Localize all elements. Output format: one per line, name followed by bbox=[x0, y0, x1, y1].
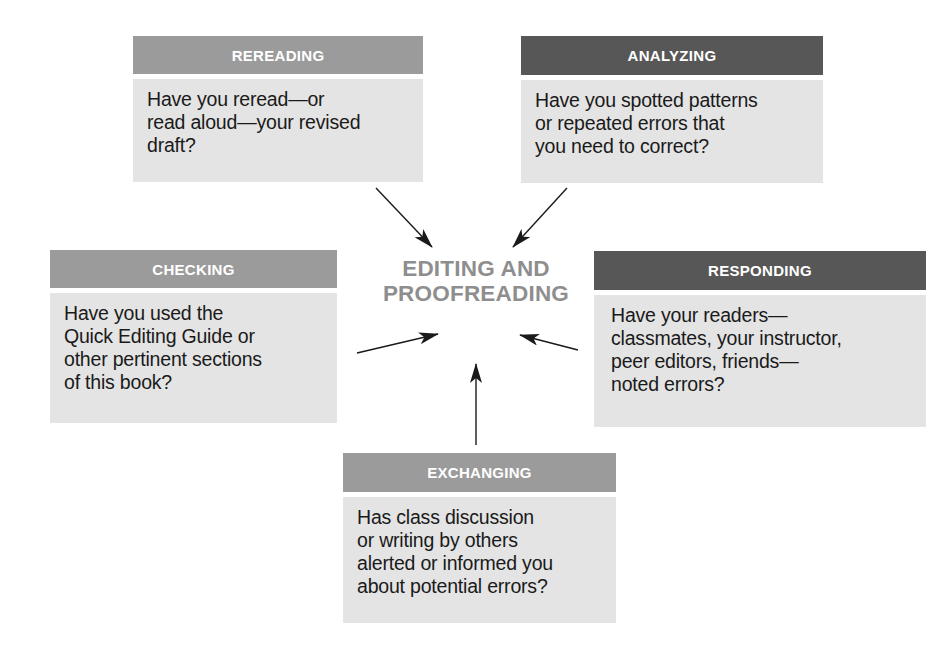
arrow-responding-to-center bbox=[520, 335, 578, 350]
node-text-line: or repeated errors that bbox=[535, 112, 809, 135]
arrow-rereading-to-center bbox=[376, 188, 432, 247]
node-text-line: Have you used the bbox=[64, 302, 323, 325]
node-text-line: Quick Editing Guide or bbox=[64, 325, 323, 348]
node-rereading: REREADING Have you reread—or read aloud—… bbox=[133, 36, 423, 182]
center-title-line-2: PROOFREADING bbox=[360, 281, 592, 306]
node-exchanging: EXCHANGING Has class discussion or writi… bbox=[343, 453, 616, 623]
node-text-line: draft? bbox=[147, 134, 409, 157]
node-exchanging-header: EXCHANGING bbox=[343, 453, 616, 492]
node-analyzing-body: Have you spotted patterns or repeated er… bbox=[521, 80, 823, 183]
node-checking-body: Have you used the Quick Editing Guide or… bbox=[50, 293, 337, 423]
node-text-line: Has class discussion bbox=[357, 506, 602, 529]
arrow-analyzing-to-center bbox=[513, 188, 567, 247]
node-text-line: Have you reread—or bbox=[147, 88, 409, 111]
node-exchanging-body: Has class discussion or writing by other… bbox=[343, 497, 616, 623]
node-text-line: about potential errors? bbox=[357, 575, 602, 598]
node-text-line: noted errors? bbox=[611, 373, 912, 396]
node-text-line: or writing by others bbox=[357, 529, 602, 552]
node-text-line: of this book? bbox=[64, 371, 323, 394]
node-text-line: Have you spotted patterns bbox=[535, 89, 809, 112]
node-responding-body: Have your readers— classmates, your inst… bbox=[594, 295, 926, 427]
node-text-line: you need to correct? bbox=[535, 135, 809, 158]
node-responding: RESPONDING Have your readers— classmates… bbox=[594, 251, 926, 427]
arrow-checking-to-center bbox=[357, 334, 438, 353]
node-checking-header: CHECKING bbox=[50, 250, 337, 288]
node-text-line: peer editors, friends— bbox=[611, 350, 912, 373]
node-text-line: other pertinent sections bbox=[64, 348, 323, 371]
node-text-line: classmates, your instructor, bbox=[611, 327, 912, 350]
node-text-line: read aloud—your revised bbox=[147, 111, 409, 134]
node-analyzing: ANALYZING Have you spotted patterns or r… bbox=[521, 36, 823, 183]
node-checking: CHECKING Have you used the Quick Editing… bbox=[50, 250, 337, 423]
node-rereading-body: Have you reread—or read aloud—your revis… bbox=[133, 79, 423, 182]
center-title: EDITING AND PROOFREADING bbox=[360, 256, 592, 306]
node-rereading-header: REREADING bbox=[133, 36, 423, 74]
node-text-line: alerted or informed you bbox=[357, 552, 602, 575]
node-text-line: Have your readers— bbox=[611, 304, 912, 327]
node-analyzing-header: ANALYZING bbox=[521, 36, 823, 75]
node-responding-header: RESPONDING bbox=[594, 251, 926, 290]
center-title-line-1: EDITING AND bbox=[360, 256, 592, 281]
